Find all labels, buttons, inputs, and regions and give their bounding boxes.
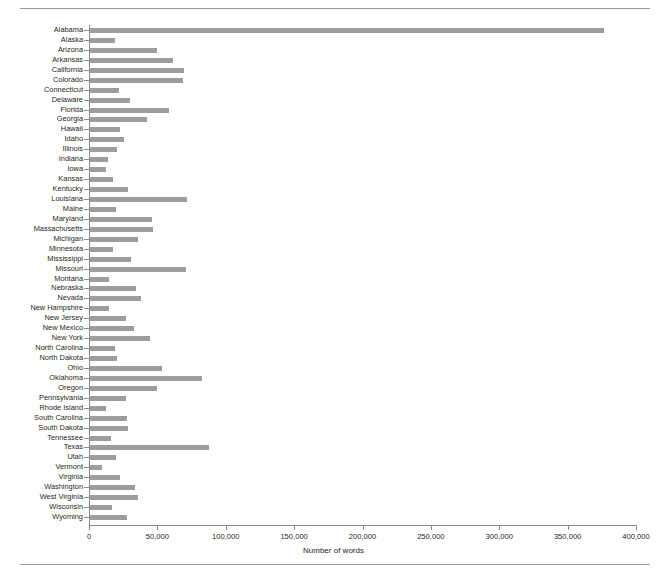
bar-row: Mississippi xyxy=(0,255,667,265)
bar xyxy=(90,336,150,341)
y-axis-tick xyxy=(84,169,89,170)
bar xyxy=(90,38,115,43)
bar-row: Georgia xyxy=(0,115,667,125)
bar-row: Nebraska xyxy=(0,284,667,294)
bar xyxy=(90,286,136,291)
y-axis-tick xyxy=(84,80,89,81)
category-label: Hawaii xyxy=(0,124,83,134)
bar-row: North Dakota xyxy=(0,354,667,364)
bar xyxy=(90,137,124,142)
bar xyxy=(90,346,115,351)
bar-row: Missouri xyxy=(0,265,667,275)
bar xyxy=(90,515,127,520)
bar-row: New Mexico xyxy=(0,324,667,334)
bar xyxy=(90,167,106,172)
bar-row: Virginia xyxy=(0,473,667,483)
bar xyxy=(90,108,169,113)
category-label: Maryland xyxy=(0,214,83,224)
bar xyxy=(90,465,102,470)
category-label: Wyoming xyxy=(0,512,83,522)
category-label: Georgia xyxy=(0,114,83,124)
category-label: South Dakota xyxy=(0,423,83,433)
y-axis-tick xyxy=(84,60,89,61)
y-axis-tick xyxy=(84,259,89,260)
bar-row: Maryland xyxy=(0,215,667,225)
bar xyxy=(90,207,116,212)
y-axis-tick xyxy=(84,438,89,439)
bar xyxy=(90,117,147,122)
y-axis-tick xyxy=(84,378,89,379)
category-label: Utah xyxy=(0,452,83,462)
bar-row: Pennsylvania xyxy=(0,394,667,404)
bar xyxy=(90,406,106,411)
bar xyxy=(90,306,109,311)
y-axis-tick xyxy=(84,249,89,250)
bar xyxy=(90,147,117,152)
category-label: Delaware xyxy=(0,95,83,105)
category-label: Idaho xyxy=(0,134,83,144)
category-label: Indiana xyxy=(0,154,83,164)
bar-row: Vermont xyxy=(0,463,667,473)
y-axis-tick xyxy=(84,189,89,190)
category-label: Mississippi xyxy=(0,254,83,264)
bar xyxy=(90,127,120,132)
y-axis-tick xyxy=(84,119,89,120)
x-axis-tick xyxy=(431,525,432,530)
y-axis-tick xyxy=(84,358,89,359)
category-label: Washington xyxy=(0,482,83,492)
y-axis-tick xyxy=(84,477,89,478)
bar xyxy=(90,436,111,441)
y-axis-tick xyxy=(84,318,89,319)
category-label: South Carolina xyxy=(0,413,83,423)
bar-row: New Hampshire xyxy=(0,304,667,314)
bar xyxy=(90,237,138,242)
bar-row: California xyxy=(0,66,667,76)
y-axis-tick xyxy=(84,298,89,299)
x-axis-tick xyxy=(89,525,90,530)
category-label: Alabama xyxy=(0,25,83,35)
bar xyxy=(90,98,130,103)
bar xyxy=(90,28,604,33)
category-label: Texas xyxy=(0,442,83,452)
y-axis-tick xyxy=(84,209,89,210)
bar xyxy=(90,475,120,480)
y-axis-tick xyxy=(84,219,89,220)
bar xyxy=(90,485,135,490)
bar-row: Utah xyxy=(0,453,667,463)
bar-row: Kansas xyxy=(0,175,667,185)
y-axis-tick xyxy=(84,179,89,180)
bar xyxy=(90,217,152,222)
bar-row: Louisiana xyxy=(0,195,667,205)
y-axis-tick xyxy=(84,368,89,369)
category-label: Oklahoma xyxy=(0,373,83,383)
category-label: Florida xyxy=(0,105,83,115)
bar-row: Indiana xyxy=(0,155,667,165)
category-label: West Virginia xyxy=(0,492,83,502)
bar-row: Connecticut xyxy=(0,86,667,96)
bar-row: Illinois xyxy=(0,145,667,155)
category-label: North Dakota xyxy=(0,353,83,363)
x-axis-tick xyxy=(294,525,295,530)
x-axis-tick-label: 400,000 xyxy=(596,532,667,542)
bar xyxy=(90,396,126,401)
y-axis-tick xyxy=(84,90,89,91)
bar-row: West Virginia xyxy=(0,493,667,503)
category-label: Massachusetts xyxy=(0,224,83,234)
category-label: Nebraska xyxy=(0,283,83,293)
bar xyxy=(90,177,113,182)
category-label: Illinois xyxy=(0,144,83,154)
category-label: Alaska xyxy=(0,35,83,45)
bar xyxy=(90,505,112,510)
y-axis-tick xyxy=(84,199,89,200)
bar xyxy=(90,227,153,232)
bar xyxy=(90,68,184,73)
bar xyxy=(90,78,183,83)
category-label: Connecticut xyxy=(0,85,83,95)
bar-row: New York xyxy=(0,334,667,344)
category-label: Michigan xyxy=(0,234,83,244)
x-axis-title: Number of words xyxy=(0,546,667,555)
bar-row: Nevada xyxy=(0,294,667,304)
y-axis-tick xyxy=(84,398,89,399)
category-label: Tennessee xyxy=(0,433,83,443)
y-axis-tick xyxy=(84,388,89,389)
